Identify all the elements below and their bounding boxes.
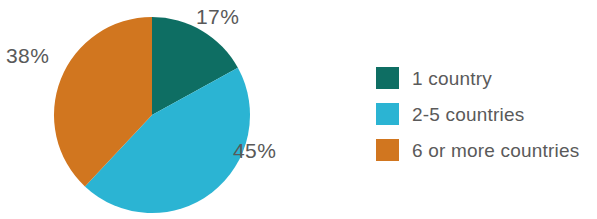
legend-label-6-or-more-countries: 6 or more countries (412, 141, 579, 160)
data-label-2-5-countries: 45% (233, 140, 276, 161)
chart-legend: 1 country 2-5 countries 6 or more countr… (376, 60, 594, 168)
legend-swatch-icon-2-5-countries (376, 103, 399, 125)
pie-chart-svg (0, 0, 310, 219)
legend-swatch-icon-1-country (376, 67, 399, 89)
legend-label-1-country: 1 country (412, 69, 492, 88)
legend-item-1-country[interactable]: 1 country (376, 60, 594, 96)
data-label-1-country: 17% (196, 6, 239, 27)
pie-chart-figure: 17% 38% 45% 1 country 2-5 countries 6 or… (0, 0, 597, 219)
pie-chart-plot-area: 17% 38% 45% (0, 0, 310, 219)
legend-swatch-icon-6-or-more-countries (376, 139, 399, 161)
legend-item-2-5-countries[interactable]: 2-5 countries (376, 96, 594, 132)
legend-label-2-5-countries: 2-5 countries (412, 105, 524, 124)
data-label-6-or-more-countries: 38% (6, 45, 49, 66)
legend-item-6-or-more-countries[interactable]: 6 or more countries (376, 132, 594, 168)
